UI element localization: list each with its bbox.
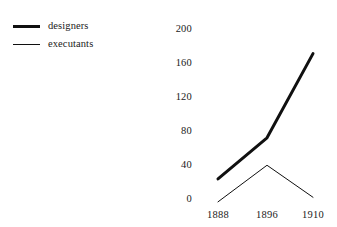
series-line-designers bbox=[218, 54, 313, 179]
y-tick-120: 120 bbox=[158, 91, 192, 102]
y-tick-160: 160 bbox=[158, 57, 192, 68]
x-tick-1896: 1896 bbox=[247, 209, 287, 220]
series-line-executants bbox=[218, 165, 313, 202]
y-tick-80: 80 bbox=[158, 125, 192, 136]
x-tick-1888: 1888 bbox=[198, 209, 238, 220]
y-tick-40: 40 bbox=[158, 159, 192, 170]
y-tick-0: 0 bbox=[158, 193, 192, 204]
line-chart-figure: designers executants 200 160 120 80 40 0… bbox=[0, 0, 337, 227]
plot-area: 200 160 120 80 40 0 1888 1896 1910 bbox=[0, 0, 337, 227]
x-tick-1910: 1910 bbox=[293, 209, 333, 220]
y-tick-200: 200 bbox=[158, 23, 192, 34]
